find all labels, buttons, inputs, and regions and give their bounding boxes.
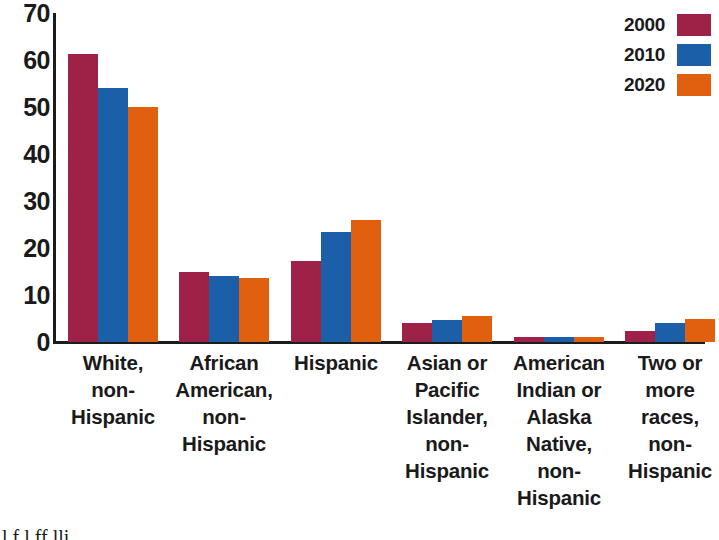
x-axis-label-line: Indian or [496,376,622,403]
x-axis-label-line: Islander, [385,403,509,430]
y-axis-tick-label: 70 [4,1,50,26]
x-axis-label-line: African [162,349,286,376]
x-axis-label-line: non- [162,403,286,430]
bar-group-bars [392,13,502,342]
x-axis-label-1: AfricanAmerican,non-Hispanic [162,349,286,457]
x-axis-label-line: American [496,349,622,376]
x-axis-label-line: more [607,376,719,403]
x-axis-label-line: Hispanic [274,349,398,376]
x-axis-label-line: Two or [607,349,719,376]
y-axis-tick-label: 20 [4,236,50,261]
bar-2000-3[interactable] [402,323,432,342]
bar-2020-3[interactable] [462,316,492,342]
x-axis-label-line: races, [607,403,719,430]
bar-2020-4[interactable] [574,337,604,342]
x-axis-label-line: Asian or [385,349,509,376]
legend-label: 2010 [624,44,665,66]
x-axis-label-3: Asian orPacificIslander,non-Hispanic [385,349,509,484]
y-axis-tick-label: 50 [4,95,50,120]
x-axis-label-line: White, [51,349,175,376]
bar-group-bars [281,13,391,342]
bar-group [392,13,502,342]
x-axis-label-line: Hispanic [607,457,719,484]
y-axis-tick-label: 60 [4,48,50,73]
bar-group-bars [58,13,168,342]
legend-color-swatch [677,44,711,66]
x-axis-label-line: non- [51,376,175,403]
x-axis-label-line: Native, [496,430,622,457]
x-axis-label-line: American, [162,376,286,403]
x-axis-label-line: non- [607,430,719,457]
x-axis-label-5: Two ormoreraces,non-Hispanic [607,349,719,484]
x-axis-label-0: White,non-Hispanic [51,349,175,430]
bar-2000-5[interactable] [625,331,655,342]
bar-2010-0[interactable] [98,88,128,342]
bar-2010-1[interactable] [209,276,239,342]
bar-group [503,13,615,342]
bar-2000-1[interactable] [179,272,209,343]
bar-group [169,13,279,342]
bar-2000-2[interactable] [291,261,321,342]
bar-2000-0[interactable] [68,54,98,342]
y-axis-tick-label: 40 [4,142,50,167]
y-axis-tick-label: 0 [4,330,50,355]
x-axis-label-line: Alaska [496,403,622,430]
legend-color-swatch [677,74,711,96]
x-axis-label-line: non- [385,430,509,457]
bar-2010-4[interactable] [544,337,574,342]
bar-group-bars [503,13,615,342]
bar-2020-1[interactable] [239,278,269,342]
bar-2010-5[interactable] [655,323,685,342]
chart-legend: 200020102020 [624,14,711,96]
legend-label: 2000 [624,14,665,36]
x-axis-label-4: AmericanIndian orAlaskaNative,non-Hispan… [496,349,622,511]
bar-2020-0[interactable] [128,107,158,342]
x-axis-category-labels: White,non-HispanicAfricanAmerican,non-Hi… [56,349,705,528]
cropped-body-text: l f l ff lli [2,526,69,540]
legend-item-2010[interactable]: 2010 [624,44,711,66]
x-axis-label-line: Hispanic [162,430,286,457]
legend-item-2000[interactable]: 2000 [624,14,711,36]
bar-2010-2[interactable] [321,232,351,342]
bar-2020-5[interactable] [685,319,715,343]
bar-2020-2[interactable] [351,220,381,342]
legend-color-swatch [677,14,711,36]
legend-item-2020[interactable]: 2020 [624,74,711,96]
y-axis-tick-label: 30 [4,189,50,214]
bar-group [281,13,391,342]
x-axis-label-line: non- [496,457,622,484]
y-axis-tick-label: 10 [4,283,50,308]
x-axis-label-line: Hispanic [51,403,175,430]
plot-area [56,13,705,342]
x-axis-label-line: Hispanic [496,484,622,511]
bar-2010-3[interactable] [432,320,462,342]
bar-group-bars [169,13,279,342]
bar-group [58,13,168,342]
legend-label: 2020 [624,74,665,96]
x-axis-label-line: Hispanic [385,457,509,484]
bar-2000-4[interactable] [514,337,544,342]
x-axis-label-2: Hispanic [274,349,398,376]
y-axis-tick-labels: 706050403020100 [0,0,50,344]
x-axis-label-line: Pacific [385,376,509,403]
